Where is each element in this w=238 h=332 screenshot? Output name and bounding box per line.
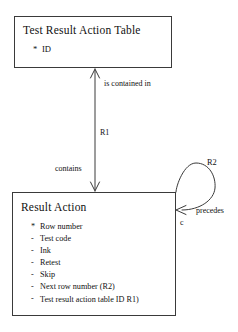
attribute-label: Row number	[40, 221, 83, 233]
relationship-label-precedes: precedes	[196, 206, 224, 215]
relationship-r1-connector	[91, 69, 100, 191]
attribute-label: Skip	[40, 269, 55, 281]
attribute-label: Retest	[40, 257, 60, 269]
attribute-item: - Test result action table ID R1)	[31, 294, 139, 306]
attribute-item: - Retest	[31, 257, 139, 269]
relationship-label-r1: R1	[100, 128, 109, 137]
attribute-marker: -	[31, 293, 40, 305]
attribute-marker: -	[31, 245, 40, 257]
attribute-item: - Skip	[31, 269, 139, 281]
attribute-item: * Row number	[31, 221, 139, 233]
r1-arrowhead-up-icon	[91, 69, 100, 78]
attribute-list: * ID	[33, 43, 51, 55]
relationship-label-contains: contains	[55, 164, 82, 173]
diagram-canvas: Test Result Action Table * ID Result Act…	[0, 0, 238, 332]
entity-title: Test Result Action Table	[23, 24, 141, 36]
attribute-item: - Test code	[31, 233, 139, 245]
attribute-list: * Row number - Test code - Ink - Retest …	[31, 221, 139, 306]
attribute-marker: -	[31, 281, 40, 293]
r1-arrowhead-down-icon	[91, 182, 100, 191]
r2-arrowhead-left-icon	[176, 206, 186, 215]
attribute-label: Test result action table ID R1)	[40, 294, 139, 306]
attribute-marker: -	[31, 269, 40, 281]
entity-title: Result Action	[21, 201, 87, 213]
attribute-marker: *	[31, 221, 40, 233]
attribute-label: Test code	[40, 233, 71, 245]
attribute-item: - Next row number (R2)	[31, 281, 139, 293]
relationship-multiplicity-c: c	[180, 218, 184, 227]
relationship-label-is-contained-in: is contained in	[104, 79, 151, 88]
attribute-marker: -	[31, 233, 40, 245]
attribute-marker: -	[31, 257, 40, 269]
relationship-label-r2: R2	[207, 158, 217, 167]
r2-loop-line	[176, 163, 215, 210]
entity-result-action[interactable]: Result Action * Row number - Test code -…	[12, 192, 176, 316]
attribute-item: - Ink	[31, 245, 139, 257]
attribute-label: Ink	[40, 245, 51, 257]
attribute-marker: *	[33, 43, 42, 55]
entity-test-result-action-table[interactable]: Test Result Action Table * ID	[14, 16, 172, 68]
attribute-label: Next row number (R2)	[40, 281, 115, 293]
attribute-item: * ID	[33, 43, 51, 55]
attribute-label: ID	[42, 43, 51, 55]
